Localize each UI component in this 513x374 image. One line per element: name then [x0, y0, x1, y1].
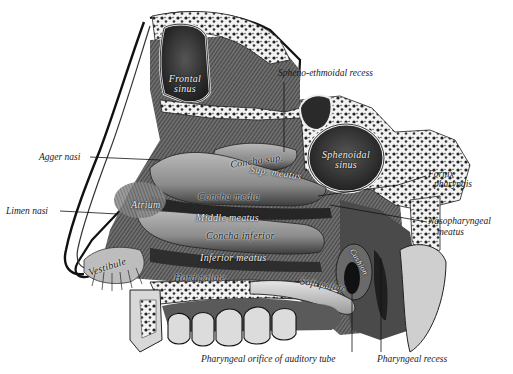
label-concha-media: Concha media	[198, 192, 260, 203]
label-frontal-sinus-2: sinus	[162, 84, 208, 95]
label-hard-palate: Hard palate	[174, 273, 226, 284]
label-middle-meatus: Middle meatus	[196, 213, 259, 224]
nasal-cavity-figure: Spheno-ethmoidal recess Agger nasi Limen…	[0, 0, 513, 374]
label-inferior-meatus: Inferior meatus	[200, 253, 266, 264]
label-limen-nasi: Limen nasi	[6, 207, 48, 217]
label-atrium: Atrium	[131, 200, 161, 211]
label-sphenoidal-sinus-2: sinus	[314, 160, 378, 171]
label-pharyngeal-recess: Pharyngeal recess	[377, 355, 447, 365]
label-concha-inferior: Concha inferior	[206, 231, 275, 242]
label-spheno-ethmoidal-recess: Spheno-ethmoidal recess	[278, 69, 373, 79]
label-nasopharyngeal-meatus-1: Nasopharyngeal	[428, 217, 491, 227]
label-pharyngeal-orifice-auditory-tube: Pharyngeal orifice of auditory tube	[201, 355, 336, 365]
label-agger-nasi: Agger nasi	[39, 153, 80, 163]
label-nasopharyngeal-meatus-2: meatus	[437, 228, 464, 238]
label-fornix-pharyngis-2: pharyngis	[434, 180, 472, 190]
